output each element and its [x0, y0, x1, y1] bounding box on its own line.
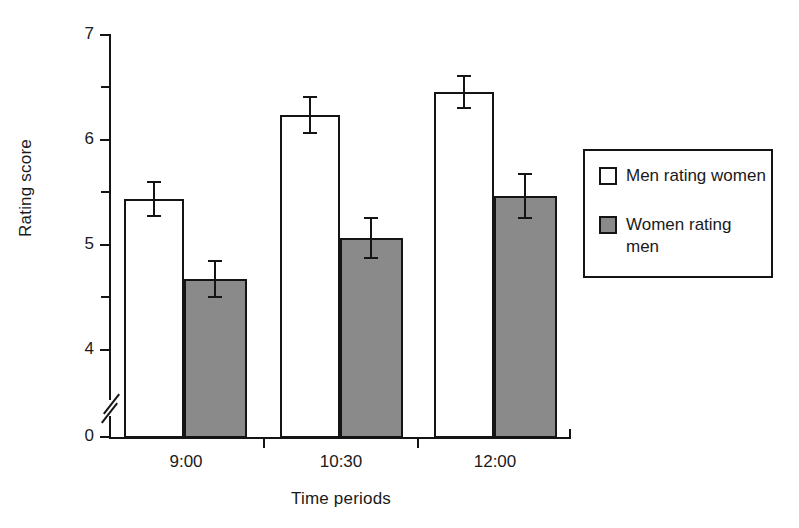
bar-women-10-30[interactable]: [340, 238, 403, 438]
x-tick-label-10-30: 10:30: [281, 452, 401, 472]
bar-women-9-00[interactable]: [184, 279, 247, 438]
errorbar-women-9-00: [208, 260, 209, 298]
errorbar-women-10-30: [364, 217, 365, 259]
x-tick-1: [263, 439, 265, 448]
legend-label-men-rating-women: Men rating women: [626, 165, 766, 187]
x-axis-line: [109, 437, 571, 439]
errorbar-men-12-00: [457, 75, 458, 109]
legend-item-men-rating-women[interactable]: Men rating women: [599, 165, 766, 187]
x-tick-2: [417, 439, 419, 448]
legend-item-women-rating-men[interactable]: Women rating men: [599, 214, 766, 258]
errorbar-men-9-00: [147, 181, 148, 217]
x-tick-label-9-00: 9:00: [126, 452, 246, 472]
gray-square-icon: [599, 216, 617, 234]
errorbar-women-12-00: [518, 173, 519, 219]
x-axis-end-tick: [569, 429, 571, 439]
bar-chart-figure: Rating score 7 6 5 4 0: [0, 0, 799, 528]
x-axis-label: Time periods: [110, 489, 572, 509]
x-tick-label-12-00: 12:00: [435, 452, 555, 472]
bar-men-12-00[interactable]: [434, 92, 494, 438]
white-square-icon: [599, 167, 617, 185]
legend-label-women-rating-men: Women rating men: [626, 214, 766, 258]
bar-men-10-30[interactable]: [280, 115, 340, 438]
legend: Men rating women Women rating men: [583, 149, 773, 278]
bar-women-12-00[interactable]: [494, 196, 557, 438]
bar-men-9-00[interactable]: [124, 199, 184, 438]
errorbar-men-10-30: [303, 96, 304, 134]
x-axis-start-tick: [109, 429, 111, 439]
